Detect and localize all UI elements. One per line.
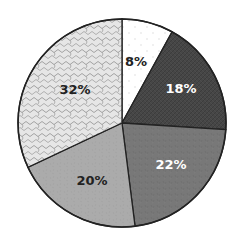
- slice-label: 20%: [76, 173, 107, 188]
- slice-label: 18%: [165, 81, 196, 96]
- slice-label: 8%: [125, 54, 147, 69]
- pie-slices: [18, 19, 226, 227]
- slice-label: 22%: [155, 157, 186, 172]
- slice-label: 32%: [59, 82, 90, 97]
- pie-chart: 8%18%22%20%32%: [0, 0, 239, 243]
- pie-slice-22-percent: [122, 123, 226, 226]
